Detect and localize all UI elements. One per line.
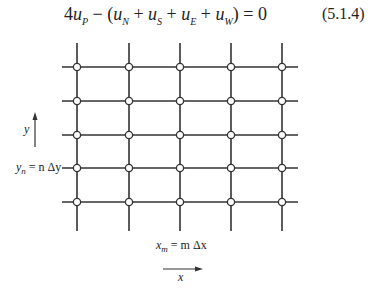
grid-node [176,63,183,70]
grid-node [227,131,234,138]
grid-node [278,63,285,70]
row-label-sub: n [21,166,26,176]
grid-node [227,97,234,104]
grid-node [73,63,80,70]
grid-node [125,63,132,70]
row-label: yn = n Δy [16,160,61,176]
grid-node [125,198,132,205]
col-label-sub: m [161,244,168,254]
grid-node [125,164,132,171]
grid-node [278,164,285,171]
grid-node [278,97,285,104]
grid-node [227,164,234,171]
grid-node [227,198,234,205]
y-axis-label: y [24,122,29,137]
x-axis-label: x [178,270,183,285]
column-label: xm = m Δx [156,238,207,254]
y-arrowhead-icon [33,112,38,120]
grid-node [73,198,80,205]
grid-node [176,198,183,205]
x-arrowhead-icon [195,267,203,272]
grid-node [176,131,183,138]
grid-node [125,131,132,138]
row-label-expr: = n Δy [29,160,61,174]
grid-node [278,198,285,205]
grid-node [125,97,132,104]
col-label-expr: = m Δx [171,238,207,252]
grid-node [176,97,183,104]
grid-node [227,63,234,70]
grid-node [176,164,183,171]
grid-node [73,164,80,171]
grid-node [278,131,285,138]
grid-node [73,131,80,138]
grid-node [73,97,80,104]
